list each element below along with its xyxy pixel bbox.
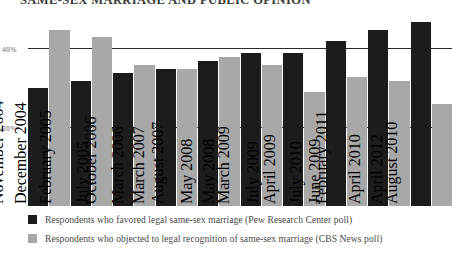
bar-label: August 2010: [383, 122, 401, 204]
bar-label: March 2009: [215, 126, 233, 204]
bar: April 2012: [411, 22, 431, 206]
chart-legend: Respondents who favored legal same-sex m…: [28, 210, 438, 248]
bar-label: November 2004: [0, 100, 8, 204]
bar-label: August 2007: [149, 122, 167, 204]
bar-label: April 2009: [261, 134, 279, 204]
bar-label: October 2006: [83, 116, 101, 204]
bar-label: February 2011: [314, 111, 332, 204]
bar: August 2010: [432, 104, 452, 206]
bar-label: July 2010: [286, 141, 304, 204]
bar-label: April 2010: [346, 134, 364, 204]
bar-label: March 2007: [130, 126, 148, 204]
legend-label: Respondents who favored legal same-sex m…: [45, 214, 352, 225]
legend-swatch-icon: [28, 234, 37, 243]
page-title: SAME-SEX MARRIAGE AND PUBLIC OPINION: [20, 0, 432, 8]
y-axis-tick-40: 40%: [2, 46, 17, 53]
bar-label: February 2005: [37, 110, 55, 204]
legend-swatch-icon: [28, 215, 37, 224]
bar-group: August 2004November 2004December 2004Feb…: [28, 10, 452, 206]
bar-label: May 2008: [179, 139, 197, 204]
bar-label: December 2004: [12, 102, 30, 204]
legend-item: Respondents who objected to legal recogn…: [28, 229, 438, 248]
bar-label: July 2009: [244, 141, 262, 204]
chart-plot-area: 40% 20% August 2004November 2004December…: [28, 10, 452, 206]
bar-label: March 2006: [109, 126, 127, 204]
legend-item: Respondents who favored legal same-sex m…: [28, 210, 438, 229]
legend-label: Respondents who objected to legal recogn…: [45, 233, 382, 244]
chart-page: SAME-SEX MARRIAGE AND PUBLIC OPINION 40%…: [0, 0, 452, 262]
